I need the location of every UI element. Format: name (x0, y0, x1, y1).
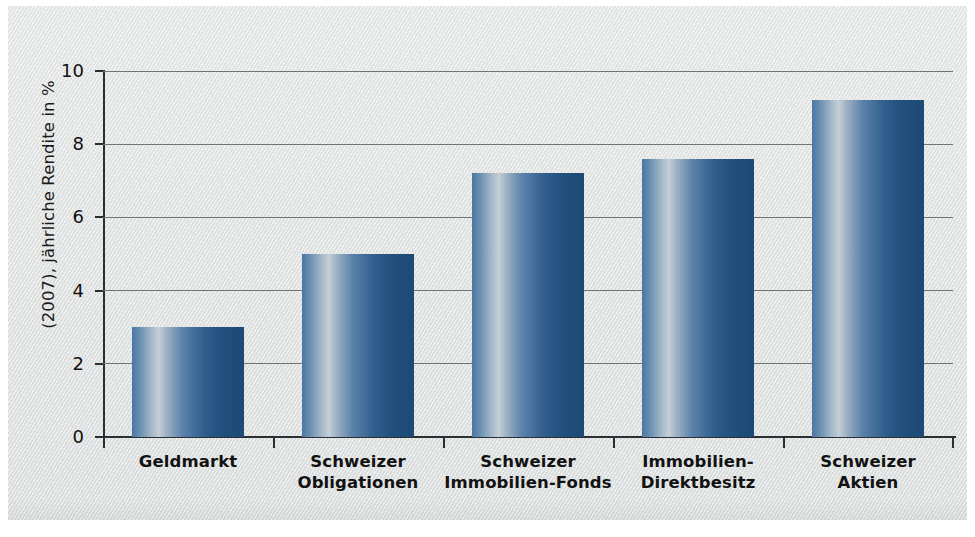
plot-area (103, 71, 953, 437)
bar-geldmarkt[interactable] (132, 327, 244, 437)
y-tick-label-2: 2 (44, 353, 84, 374)
x-label-schweizer-aktien-line2: Aktien (783, 473, 953, 494)
y-tick-label-4: 4 (44, 280, 84, 301)
y-axis-title: (2007), jährliche Rendite in % (39, 40, 58, 370)
x-label-schweizer-immobilien-fonds: Schweizer Immobilien-Fonds (443, 452, 613, 493)
bar-schweizer-immobilien-fonds[interactable] (472, 173, 584, 437)
x-tick-5 (952, 437, 954, 448)
y-tick-label-10: 10 (44, 60, 84, 81)
x-tick-0 (103, 437, 105, 448)
x-label-geldmarkt: Geldmarkt (103, 452, 273, 473)
bar-immobilien-direktbesitz[interactable] (642, 159, 754, 437)
bar-schweizer-obligationen[interactable] (302, 254, 414, 437)
y-tick-label-6: 6 (44, 206, 84, 227)
x-label-immobilien-direktbesitz-line2: Direktbesitz (613, 473, 783, 494)
x-tick-2 (443, 437, 445, 448)
y-tick-label-8: 8 (44, 133, 84, 154)
x-label-schweizer-immobilien-fonds-line2: Immobilien-Fonds (443, 473, 613, 494)
x-tick-1 (273, 437, 275, 448)
bar-schweizer-aktien[interactable] (812, 100, 924, 437)
x-label-schweizer-aktien: Schweizer Aktien (783, 452, 953, 493)
x-tick-3 (613, 437, 615, 448)
y-tick-label-0: 0 (44, 426, 84, 447)
x-label-geldmarkt-line1: Geldmarkt (139, 452, 237, 471)
x-label-immobilien-direktbesitz-line1: Immobilien- (642, 452, 754, 471)
x-label-schweizer-aktien-line1: Schweizer (820, 452, 915, 471)
x-label-immobilien-direktbesitz: Immobilien- Direktbesitz (613, 452, 783, 493)
x-tick-4 (783, 437, 785, 448)
x-label-schweizer-obligationen: Schweizer Obligationen (273, 452, 443, 493)
gridline-10 (103, 71, 953, 72)
x-label-schweizer-obligationen-line1: Schweizer (310, 452, 405, 471)
x-label-schweizer-obligationen-line2: Obligationen (273, 473, 443, 494)
x-label-schweizer-immobilien-fonds-line1: Schweizer (480, 452, 575, 471)
chart-page: (2007), jährliche Rendite in % 10 8 6 4 … (0, 0, 975, 537)
